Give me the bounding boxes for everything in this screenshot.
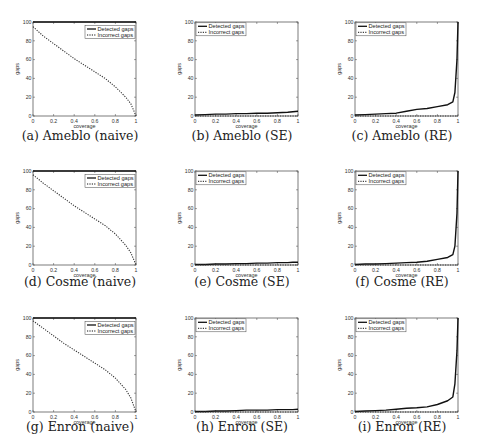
y-axis-label: gaps [176, 212, 182, 224]
y-tick-label: 80 [26, 334, 32, 340]
line-chart: 00.20.40.60.81020406080100coveragegapsDe… [162, 2, 322, 132]
line-chart: 00.20.40.60.81020406080100coveragegapsDe… [322, 298, 479, 428]
y-tick-label: 100 [345, 315, 354, 321]
y-axis-label: gaps [14, 359, 20, 371]
legend-label: Incorrect gaps [209, 325, 245, 331]
plot-frame [195, 171, 298, 265]
panel-caption: (d) Cosme (naive) [0, 274, 160, 289]
y-tick-label: 0 [29, 262, 32, 268]
x-tick-label: 0.2 [212, 267, 219, 273]
y-tick-label: 80 [188, 187, 194, 193]
legend: Detected gapsIncorrect gaps [356, 319, 406, 332]
line-chart: 00.20.40.60.81020406080100coveragegapsDe… [162, 298, 322, 428]
y-tick-label: 80 [26, 38, 32, 44]
y-tick-label: 60 [26, 205, 32, 211]
y-tick-label: 60 [348, 56, 354, 62]
chart-panel-d: 00.20.40.60.81020406080100coveragegapsDe… [0, 151, 160, 301]
legend-label: Incorrect gaps [209, 29, 245, 35]
y-tick-label: 40 [348, 371, 354, 377]
y-tick-label: 40 [348, 75, 354, 81]
legend-label: Incorrect gaps [209, 178, 245, 184]
x-tick-label: 0 [32, 118, 35, 124]
plot-frame [355, 318, 458, 412]
panel-caption: (g) Enron (naive) [0, 419, 160, 434]
x-tick-label: 0.8 [112, 118, 119, 124]
panel-caption: (e) Cosme (SE) [162, 274, 322, 289]
y-axis-label: gaps [176, 63, 182, 75]
y-tick-label: 20 [188, 243, 194, 249]
x-tick-label: 1 [297, 267, 300, 273]
y-tick-label: 40 [188, 371, 194, 377]
y-tick-label: 20 [188, 94, 194, 100]
panel-caption: (h) Enron (SE) [162, 419, 322, 434]
y-tick-label: 80 [348, 187, 354, 193]
x-tick-label: 0 [354, 118, 357, 124]
y-tick-label: 80 [348, 334, 354, 340]
y-tick-label: 100 [345, 19, 354, 25]
line-chart: 00.20.40.60.81020406080100coveragegapsDe… [0, 2, 160, 132]
x-tick-label: 0.8 [434, 267, 441, 273]
y-tick-label: 20 [348, 390, 354, 396]
y-tick-label: 20 [26, 243, 32, 249]
y-tick-label: 20 [348, 94, 354, 100]
y-tick-label: 40 [348, 224, 354, 230]
y-tick-label: 20 [26, 390, 32, 396]
x-tick-label: 0 [194, 118, 197, 124]
y-tick-label: 60 [188, 352, 194, 358]
x-tick-label: 0.2 [50, 118, 57, 124]
y-tick-label: 40 [188, 224, 194, 230]
y-tick-label: 20 [348, 243, 354, 249]
legend: Detected gapsIncorrect gaps [85, 175, 135, 188]
x-tick-label: 0.2 [212, 118, 219, 124]
line-chart: 00.20.40.60.81020406080100coveragegapsDe… [322, 2, 479, 132]
y-tick-label: 100 [185, 168, 194, 174]
panel-caption: (c) Ameblo (RE) [322, 128, 479, 143]
chart-panel-i: 00.20.40.60.81020406080100coveragegapsDe… [322, 298, 479, 448]
y-tick-label: 60 [26, 56, 32, 62]
chart-panel-b: 00.20.40.60.81020406080100coveragegapsDe… [162, 2, 322, 152]
y-tick-label: 80 [26, 187, 32, 193]
line-chart: 00.20.40.60.81020406080100coveragegapsDe… [0, 151, 160, 281]
legend: Detected gapsIncorrect gaps [85, 322, 135, 335]
y-tick-label: 80 [348, 38, 354, 44]
y-tick-label: 20 [188, 390, 194, 396]
legend: Detected gapsIncorrect gaps [196, 23, 246, 36]
plot-frame [355, 22, 458, 116]
legend-label: Incorrect gaps [98, 32, 134, 38]
x-tick-label: 0 [354, 267, 357, 273]
x-tick-label: 0.2 [372, 267, 379, 273]
line-chart: 00.20.40.60.81020406080100coveragegapsDe… [162, 151, 322, 281]
y-axis-label: gaps [336, 63, 342, 75]
y-tick-label: 100 [23, 315, 32, 321]
y-tick-label: 60 [188, 56, 194, 62]
legend-label: Incorrect gaps [369, 29, 405, 35]
y-axis-label: gaps [14, 63, 20, 75]
y-tick-label: 80 [188, 38, 194, 44]
legend: Detected gapsIncorrect gaps [196, 319, 246, 332]
panel-caption: (a) Ameblo (naive) [0, 128, 160, 143]
y-tick-label: 100 [185, 19, 194, 25]
y-axis-label: gaps [14, 212, 20, 224]
x-tick-label: 1 [297, 118, 300, 124]
plot-frame [195, 22, 298, 116]
y-tick-label: 40 [188, 75, 194, 81]
chart-panel-h: 00.20.40.60.81020406080100coveragegapsDe… [162, 298, 322, 448]
x-tick-label: 0.2 [372, 118, 379, 124]
y-tick-label: 60 [188, 205, 194, 211]
x-tick-label: 1 [135, 118, 138, 124]
line-chart: 00.20.40.60.81020406080100coveragegapsDe… [0, 298, 160, 428]
legend-label: Incorrect gaps [98, 181, 134, 187]
y-tick-label: 0 [29, 409, 32, 415]
legend: Detected gapsIncorrect gaps [356, 23, 406, 36]
y-axis-label: gaps [336, 212, 342, 224]
y-tick-label: 0 [351, 113, 354, 119]
y-tick-label: 0 [191, 409, 194, 415]
x-tick-label: 1 [457, 267, 460, 273]
x-tick-label: 0.8 [274, 267, 281, 273]
legend: Detected gapsIncorrect gaps [85, 26, 135, 39]
x-tick-label: 0.8 [274, 118, 281, 124]
y-tick-label: 0 [191, 113, 194, 119]
y-tick-label: 20 [26, 94, 32, 100]
x-tick-label: 1 [457, 118, 460, 124]
x-tick-label: 0 [194, 267, 197, 273]
